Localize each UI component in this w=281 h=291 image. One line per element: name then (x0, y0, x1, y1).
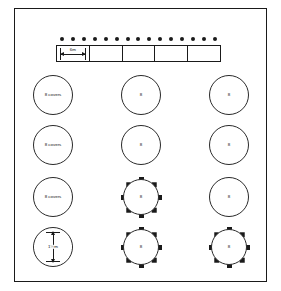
top-table-seat-dot (136, 37, 140, 41)
round-table-cell: 8 (118, 224, 164, 270)
round-table[interactable]: 8 covers (33, 125, 73, 165)
top-table-seat-dot (158, 37, 162, 41)
round-table-row: 1½m88 (30, 224, 252, 270)
top-table-seat-dot (82, 37, 86, 41)
round-table-label: 8 (122, 93, 160, 97)
table-diameter-tick-top (46, 232, 60, 233)
round-table-label: 1½m (34, 245, 72, 249)
round-table[interactable]: 8 (123, 179, 159, 215)
round-table[interactable]: 8 (209, 177, 249, 217)
round-table-cell: 1½m (30, 224, 76, 270)
top-table-seat-dot (71, 37, 75, 41)
round-tables-grid: 8 covers888 covers888 covers881½m88 (30, 72, 252, 272)
round-table-label: 8 (122, 143, 160, 147)
round-table-label: 8 (124, 195, 158, 199)
round-table-cell: 8 (206, 122, 252, 168)
round-table[interactable]: 8 (121, 75, 161, 115)
round-table-cell: 8 covers (30, 122, 76, 168)
top-table-seat-dot (180, 37, 184, 41)
diagram-canvas: walls 12m top table of 15 covers walls 1… (0, 0, 281, 291)
round-table-cell: 8 (118, 174, 164, 220)
top-table-seat-dot (93, 37, 97, 41)
top-table-seat-dot (60, 37, 64, 41)
top-table-rectangle: 6m (56, 45, 221, 62)
round-table-row: 8 covers88 (30, 122, 252, 168)
round-table[interactable]: 8 covers (33, 75, 73, 115)
round-table[interactable]: 8 (121, 125, 161, 165)
round-table[interactable]: 8 (209, 75, 249, 115)
top-table-segment (90, 46, 123, 61)
round-table[interactable]: 1½m (33, 227, 73, 267)
table-diameter-tick-bottom (46, 261, 60, 262)
round-table-label: 8 (212, 245, 246, 249)
top-table-seat-dot (115, 37, 119, 41)
round-table-label: 8 (210, 93, 248, 97)
round-table-row: 8 covers88 (30, 174, 252, 220)
round-table-cell: 8 covers (30, 174, 76, 220)
top-table-seat-dot (202, 37, 206, 41)
top-table-segment: 6m (57, 46, 90, 61)
top-table-seat-dot (213, 37, 217, 41)
top-table-seat-dot (191, 37, 195, 41)
round-table[interactable]: 8 (211, 229, 247, 265)
top-table-seat-dot (126, 37, 130, 41)
top-table-seat-dot (147, 37, 151, 41)
round-table-cell: 8 covers (30, 72, 76, 118)
round-table-cell: 8 (206, 72, 252, 118)
round-table-cell: 8 (206, 224, 252, 270)
round-table-label: 8 (210, 195, 248, 199)
top-table-segment (188, 46, 220, 61)
top-table-seat-dot (104, 37, 108, 41)
round-table-row: 8 covers88 (30, 72, 252, 118)
top-table-segment (123, 46, 156, 61)
top-table-seat-row (56, 36, 221, 42)
round-table-label: 8 (124, 245, 158, 249)
round-table[interactable]: 8 (123, 229, 159, 265)
top-table-seat-dot (169, 37, 173, 41)
round-table[interactable]: 8 covers (33, 177, 73, 217)
round-table-label: 8 covers (34, 195, 72, 199)
segment-dimension-arrow (61, 54, 85, 55)
round-table-label: 8 covers (34, 93, 72, 97)
round-table-cell: 8 (206, 174, 252, 220)
top-table-segment (155, 46, 188, 61)
round-table-cell: 8 (118, 72, 164, 118)
segment-dimension-label: 6m (66, 47, 80, 52)
round-table-label: 8 covers (34, 143, 72, 147)
round-table[interactable]: 8 (209, 125, 249, 165)
round-table-cell: 8 (118, 122, 164, 168)
round-table-label: 8 (210, 143, 248, 147)
